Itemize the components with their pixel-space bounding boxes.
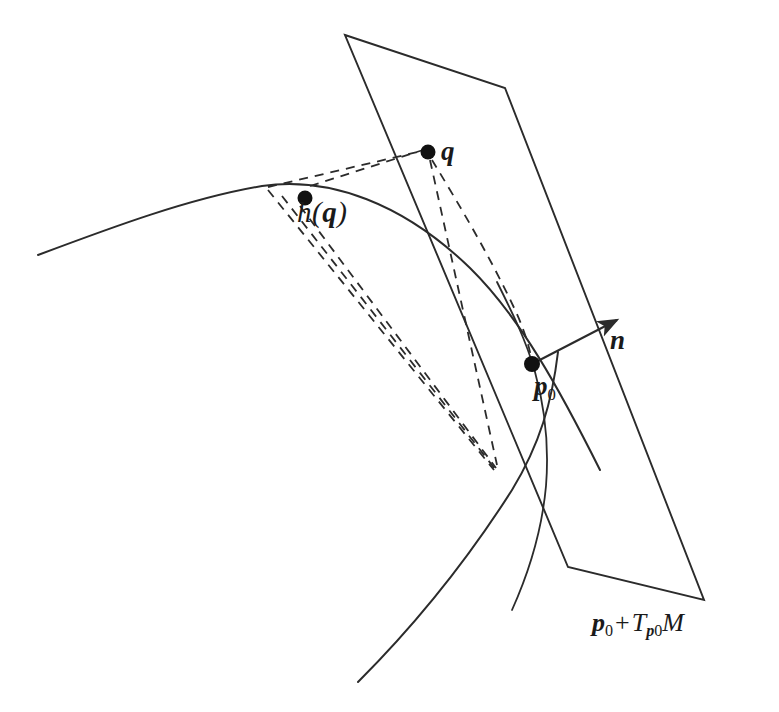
label-q-text: q [441,136,455,166]
label-p0-p: p [534,371,548,401]
dashed-hqpt-to-base [300,206,496,468]
label-plane-plus: + [613,608,632,637]
label-plane-M: M [662,608,684,637]
label-p0: p0 [534,371,556,405]
label-normal-n: n [610,325,625,356]
label-n-text: n [610,325,625,355]
manifold-lower-curve [358,352,558,682]
label-plane-p: p [592,608,605,637]
label-hq-close-paren: ) [337,196,347,228]
figure-canvas: q h(q) p0 n p0+Tp0M [0,0,779,712]
label-tangent-plane: p0+Tp0M [592,608,684,640]
label-plane-T-subscript: p0 [646,622,662,639]
dashed-curve-to-q [268,151,422,187]
label-plane-p-subscript: 0 [605,622,613,639]
label-hq-h: h [297,196,312,228]
label-p0-subscript: 0 [548,385,556,404]
dashed-curvept-to-base [268,190,494,470]
label-q: q [441,136,455,167]
label-h-of-q: h(q) [297,196,347,229]
diagram-svg [0,0,779,712]
label-hq-open-paren: ( [312,196,322,228]
point-q-dot [421,145,436,160]
tangent-plane-quad [345,35,704,600]
dashed-q-to-base [430,160,497,465]
label-hq-variable: q [322,196,337,228]
point-p0-dot [524,356,540,372]
dashed-curvept2-to-base [282,196,495,469]
label-plane-T: T [632,608,646,637]
dashed-q-to-p0 [432,160,532,362]
